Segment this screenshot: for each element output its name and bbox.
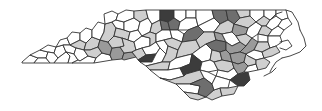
county-region bbox=[186, 10, 196, 18]
county-layer bbox=[22, 10, 292, 100]
coastline-segment bbox=[280, 40, 292, 50]
coastline-segment bbox=[282, 30, 306, 58]
choropleth-map bbox=[0, 0, 322, 111]
county-region bbox=[256, 58, 270, 70]
nc-county-map bbox=[0, 0, 322, 111]
coastline-segment bbox=[270, 58, 282, 72]
